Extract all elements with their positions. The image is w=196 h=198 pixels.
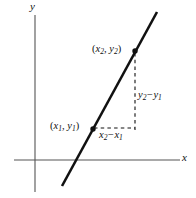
run-term2-sub: 1 [119,133,123,142]
diagram-canvas [0,0,196,198]
rise-term2-sub: 1 [158,93,162,102]
y-axis-label: y [30,1,35,12]
point-2-label: (x2, y2) [92,44,121,55]
run-label: x2−x1 [99,130,123,141]
rise-label: y2−y1 [138,90,162,101]
slope-diagram-figure: y x (x2, y2) (x1, y1) y2−y1 x2−x1 [0,0,196,198]
point-1-close-paren: ) [76,120,80,131]
x-axis-label: x [182,152,187,163]
point-2-marker [132,48,137,53]
point-1-label: (x1, y1) [50,121,79,132]
point-2-close-paren: ) [118,43,122,54]
point-1-marker [90,126,95,131]
